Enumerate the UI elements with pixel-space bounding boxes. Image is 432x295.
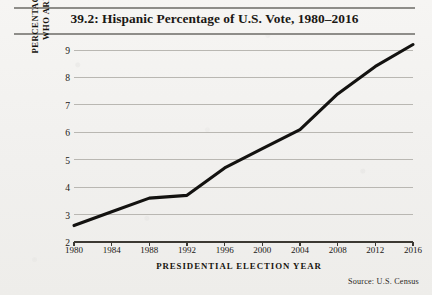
y-axis-title-line-2: WHO ARE HISPANIC	[41, 0, 51, 40]
x-axis-tick-labels: 1980198419881992199620002004200820122016	[74, 245, 413, 259]
y-axis-title: PERCENTAGE OF VOTERS WHO ARE HISPANIC	[22, 0, 58, 88]
header-rule-bottom	[14, 33, 415, 35]
y-axis-tick-label: 3	[65, 209, 70, 220]
x-axis-tick-label: 1980	[65, 245, 83, 255]
line-chart-svg	[74, 50, 413, 242]
x-axis-tick-label: 1984	[103, 245, 121, 255]
y-axis-tick-labels: 23456789	[56, 50, 70, 242]
y-axis-tick-label: 4	[65, 182, 70, 193]
x-axis-tick-label: 2004	[291, 245, 309, 255]
y-axis-tick-label: 8	[65, 72, 70, 83]
x-axis-tick-label: 1988	[140, 245, 158, 255]
y-axis-tick-label: 9	[65, 45, 70, 56]
x-axis-tick-label: 2000	[253, 245, 271, 255]
x-axis-title: PRESIDENTIAL ELECTION YEAR	[60, 261, 418, 271]
header-rule-top	[14, 7, 415, 9]
y-axis-title-line-1: PERCENTAGE OF VOTERS	[30, 0, 40, 54]
hispanic-vote-share-line	[74, 45, 413, 226]
y-axis-tick-label: 7	[65, 99, 70, 110]
source-note: Source: U.S. Census	[348, 277, 419, 286]
x-axis-tick-label: 2016	[404, 245, 422, 255]
x-axis-tick-label: 2012	[366, 245, 384, 255]
plot-area	[74, 50, 413, 242]
x-axis-tick-label: 1996	[216, 245, 234, 255]
chart-title: 39.2: Hispanic Percentage of U.S. Vote, …	[14, 11, 415, 27]
y-axis-tick-label: 6	[65, 127, 70, 138]
figure-sheet: 39.2: Hispanic Percentage of U.S. Vote, …	[0, 0, 432, 295]
x-axis-tick-label: 2008	[329, 245, 347, 255]
y-axis-tick-label: 5	[65, 154, 70, 165]
x-axis-tick-label: 1992	[178, 245, 196, 255]
